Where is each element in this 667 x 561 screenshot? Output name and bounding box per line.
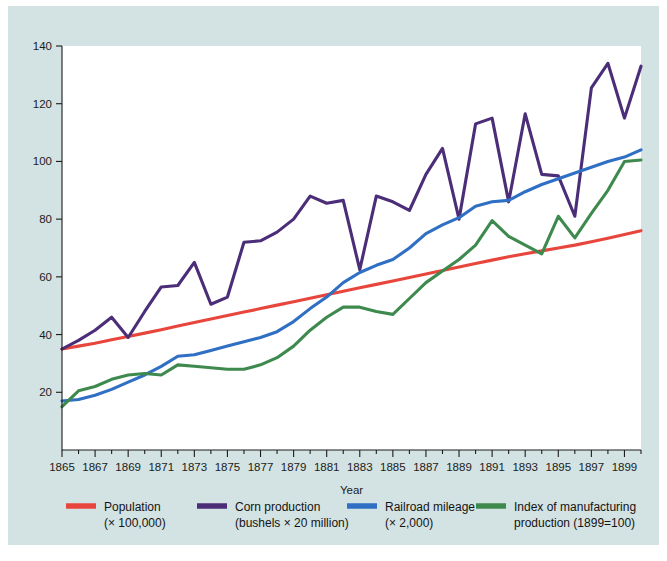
x-tick-label: 1883: [347, 461, 373, 473]
legend-sublabel: production (1899=100): [514, 516, 635, 530]
legend-label: Railroad mileage: [385, 500, 475, 514]
chart-legend: Population(× 100,000)Corn production(bus…: [66, 500, 636, 530]
y-tick-label: 120: [33, 98, 52, 110]
legend-label: Population: [104, 500, 161, 514]
y-tick-label: 20: [39, 386, 52, 398]
legend-label: Index of manufacturing: [514, 500, 636, 514]
y-tick-label: 60: [39, 271, 52, 283]
figure-root: 20406080100120140 1865186718691871187318…: [0, 0, 667, 561]
x-tick-label: 1899: [612, 461, 638, 473]
x-tick-label: 1867: [82, 461, 108, 473]
x-axis-tick-labels: 1865186718691871187318751877187918811883…: [49, 461, 637, 473]
y-tick-label: 80: [39, 213, 52, 225]
line-chart: 20406080100120140 1865186718691871187318…: [8, 6, 659, 545]
x-tick-label: 1889: [446, 461, 472, 473]
x-tick-label: 1879: [281, 461, 307, 473]
legend-label: Corn production: [235, 500, 320, 514]
x-tick-label: 1869: [115, 461, 141, 473]
x-tick-label: 1885: [380, 461, 406, 473]
x-tick-label: 1897: [579, 461, 605, 473]
x-tick-label: 1891: [479, 461, 505, 473]
x-tick-label: 1877: [248, 461, 274, 473]
x-tick-label: 1871: [148, 461, 174, 473]
x-axis-title: Year: [340, 484, 363, 496]
y-tick-label: 140: [33, 40, 52, 52]
figure-panel: 20406080100120140 1865186718691871187318…: [8, 6, 659, 545]
legend-sublabel: (× 100,000): [104, 516, 166, 530]
x-tick-label: 1893: [512, 461, 538, 473]
x-tick-label: 1895: [545, 461, 571, 473]
y-tick-label: 40: [39, 329, 52, 341]
y-axis-tick-marks: [56, 46, 62, 392]
x-tick-label: 1881: [314, 461, 340, 473]
x-tick-label: 1873: [182, 461, 208, 473]
legend-sublabel: (× 2,000): [385, 516, 433, 530]
x-tick-label: 1887: [413, 461, 439, 473]
y-axis-tick-labels: 20406080100120140: [33, 40, 52, 398]
x-tick-label: 1865: [49, 461, 75, 473]
legend-sublabel: (bushels × 20 million): [235, 516, 349, 530]
y-tick-label: 100: [33, 155, 52, 167]
x-tick-label: 1875: [215, 461, 241, 473]
